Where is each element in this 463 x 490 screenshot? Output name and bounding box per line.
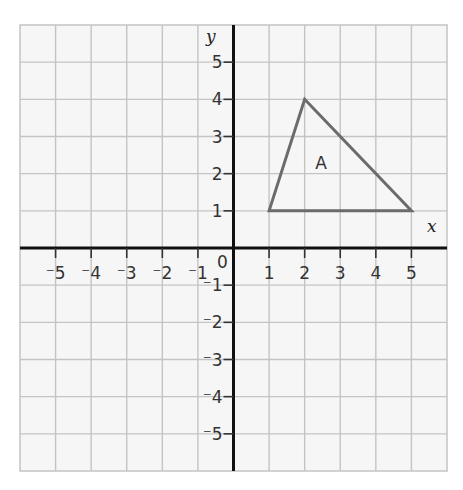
x-tick-label: ⁻3 [117, 263, 137, 283]
y-tick-label: ⁻2 [203, 312, 223, 332]
x-tick-label: 3 [335, 263, 346, 283]
origin-label: 0 [217, 252, 228, 272]
x-tick-label: ⁻5 [46, 263, 66, 283]
y-tick-label: 5 [212, 52, 223, 72]
coordinate-plane: A ⁻5⁻4⁻3⁻2⁻11234554321⁻1⁻2⁻3⁻4⁻5 x y 0 [0, 0, 463, 490]
y-tick-label: ⁻1 [203, 275, 223, 295]
x-tick-label: ⁻2 [152, 263, 172, 283]
x-tick-label: 4 [370, 263, 381, 283]
x-tick-label: 2 [299, 263, 310, 283]
x-axis-label: x [427, 216, 437, 236]
y-tick-label: 2 [212, 164, 223, 184]
x-tick-label: 1 [264, 263, 275, 283]
y-tick-label: 4 [212, 89, 223, 109]
coordinate-grid-diagram: A ⁻5⁻4⁻3⁻2⁻11234554321⁻1⁻2⁻3⁻4⁻5 x y 0 [0, 0, 463, 490]
y-tick-label: ⁻3 [203, 350, 223, 370]
y-tick-label: ⁻4 [203, 387, 223, 407]
y-tick-label: ⁻5 [203, 424, 223, 444]
x-tick-label: ⁻4 [81, 263, 101, 283]
y-tick-label: 1 [212, 201, 223, 221]
triangle-A-label: A [315, 153, 327, 173]
y-tick-label: 3 [212, 127, 223, 147]
y-axis-label: y [205, 26, 216, 46]
x-tick-label: 5 [406, 263, 417, 283]
